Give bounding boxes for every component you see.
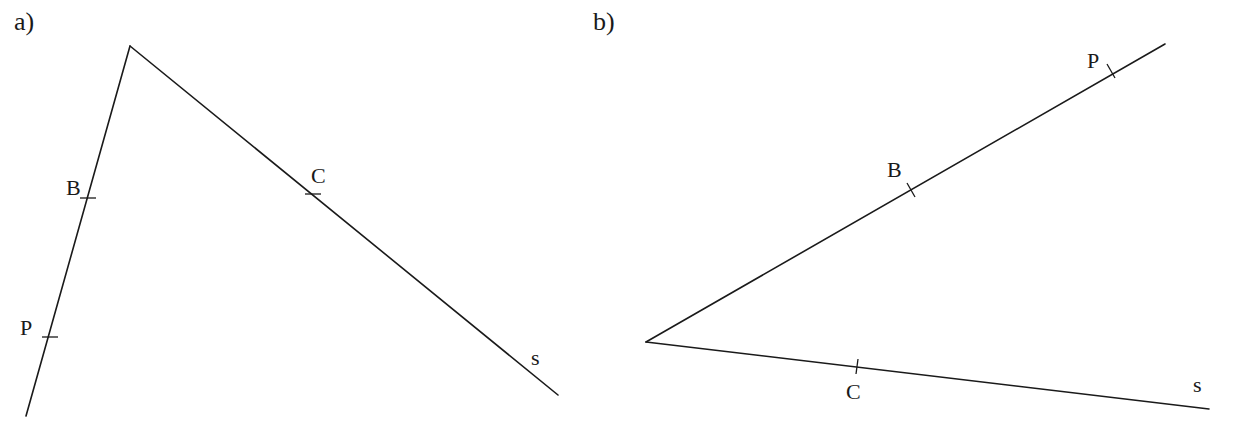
figure-a-point-c-label: C	[311, 163, 326, 188]
figure-a-point-p-label: P	[20, 315, 32, 340]
figure-a-ray-s	[130, 46, 558, 395]
figure-a-label: a)	[14, 7, 34, 36]
figure-b-label: b)	[593, 7, 615, 36]
figure-b-ray-s	[646, 342, 1209, 409]
figure-a-point-b-label: B	[66, 175, 81, 200]
figure-a: a) B P C s	[14, 7, 558, 416]
figure-b-ray-upper	[646, 44, 1165, 342]
figure-a-ray-s-label: s	[531, 345, 540, 370]
figure-b-point-p-label: P	[1087, 48, 1099, 73]
figure-a-ray-left	[26, 46, 130, 416]
figure-b-point-c-label: C	[846, 379, 861, 404]
figure-b-point-b-tick	[907, 183, 915, 197]
angle-diagram-canvas: a) B P C s b) P B C s	[0, 0, 1237, 435]
figure-b-ray-s-label: s	[1193, 372, 1202, 397]
figure-b: b) P B C s	[593, 7, 1209, 409]
figure-b-point-b-label: B	[887, 157, 902, 182]
